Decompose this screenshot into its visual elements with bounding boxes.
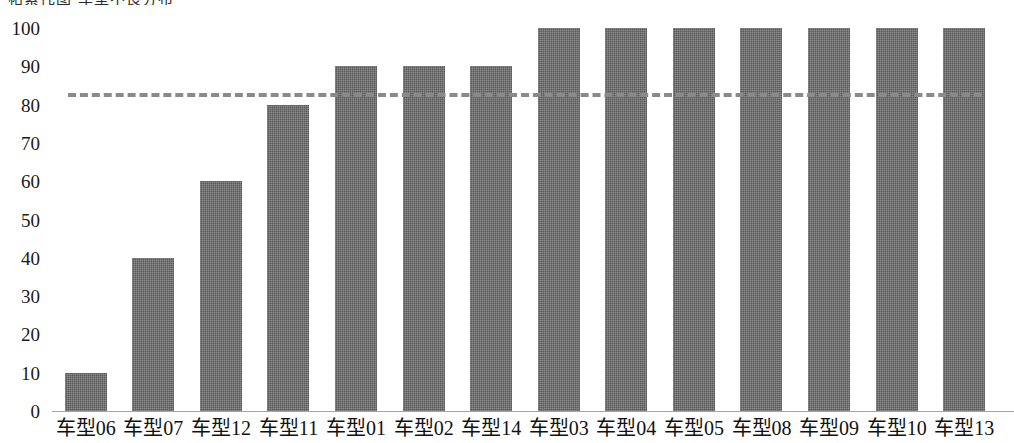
bar[interactable] (740, 28, 782, 411)
x-tick-label: 车型13 (934, 414, 994, 443)
bar[interactable] (335, 66, 377, 411)
x-tick-label: 车型01 (326, 414, 386, 443)
y-tick-label: 90 (21, 57, 40, 76)
target-reference-line (68, 93, 982, 97)
bar-series (52, 28, 998, 411)
bar-slot (930, 28, 998, 411)
x-tick-label: 车型12 (191, 414, 251, 443)
x-tick-label: 车型11 (259, 414, 318, 443)
x-tick-label: 车型14 (461, 414, 521, 443)
bar[interactable] (132, 258, 174, 411)
y-tick-label: 0 (31, 402, 41, 421)
x-axis-baseline (52, 411, 1014, 412)
bar[interactable] (673, 28, 715, 411)
chart-title-cropped: 帕累托图 车型不良分布 (8, 0, 428, 5)
x-tick-label: 车型04 (596, 414, 656, 443)
bar-slot (593, 28, 661, 411)
bar-slot (255, 28, 323, 411)
bar[interactable] (267, 105, 309, 411)
y-axis-tick-labels: 0102030405060708090100 (0, 28, 46, 411)
bar[interactable] (200, 181, 242, 411)
y-tick-label: 70 (21, 133, 40, 152)
bar-slot (457, 28, 525, 411)
bar[interactable] (470, 66, 512, 411)
bar[interactable] (808, 28, 850, 411)
bar-slot (120, 28, 188, 411)
bar[interactable] (943, 28, 985, 411)
x-tick-label: 车型05 (664, 414, 724, 443)
y-tick-label: 10 (21, 363, 40, 382)
bar-slot (525, 28, 593, 411)
y-tick-label: 40 (21, 248, 40, 267)
bar-slot (390, 28, 458, 411)
x-tick-label: 车型02 (394, 414, 454, 443)
bar[interactable] (65, 373, 107, 411)
bar-slot (863, 28, 931, 411)
bar-slot (660, 28, 728, 411)
y-tick-label: 80 (21, 95, 40, 114)
bar-slot (728, 28, 796, 411)
x-tick-label: 车型03 (529, 414, 589, 443)
y-tick-label: 50 (21, 210, 40, 229)
x-tick-label: 车型09 (799, 414, 859, 443)
bar-slot (795, 28, 863, 411)
y-tick-label: 30 (21, 287, 40, 306)
y-tick-label: 60 (21, 172, 40, 191)
y-tick-label: 20 (21, 325, 40, 344)
bar[interactable] (403, 66, 445, 411)
x-tick-label: 车型07 (123, 414, 183, 443)
bar[interactable] (876, 28, 918, 411)
bar-slot (187, 28, 255, 411)
y-tick-label: 100 (12, 19, 41, 38)
x-tick-label: 车型08 (732, 414, 792, 443)
bar[interactable] (605, 28, 647, 411)
x-axis-tick-labels: 车型06车型07车型12车型11车型01车型02车型14车型03车型04车型05… (52, 414, 998, 443)
pareto-chart: 帕累托图 车型不良分布 0102030405060708090100 车型06车… (0, 0, 1014, 443)
bar-slot (322, 28, 390, 411)
bar[interactable] (538, 28, 580, 411)
x-tick-label: 车型10 (867, 414, 927, 443)
x-tick-label: 车型06 (56, 414, 116, 443)
bar-slot (52, 28, 120, 411)
